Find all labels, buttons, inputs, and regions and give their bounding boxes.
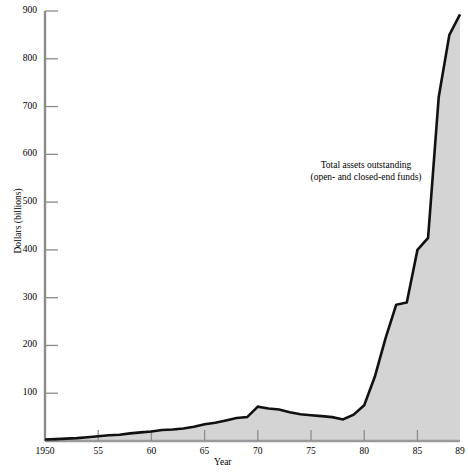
x-axis-tick-label: 75 [291,447,331,457]
x-axis-tick-label: 80 [344,447,384,457]
y-axis-tick-label: 600 [7,149,37,159]
y-axis-ticks [45,11,58,441]
y-axis-tick-label: 100 [7,388,37,398]
series-annotation-line2: (open- and closed-end funds) [300,172,432,184]
y-axis-tick-label: 700 [7,102,37,112]
x-axis-tick-label: 1950 [25,447,65,457]
y-axis-tick-label: 900 [7,6,37,16]
chart-plot-area [0,0,468,474]
series-annotation-line1: Total assets outstanding [300,160,432,172]
x-axis-tick-label: 60 [131,447,171,457]
x-axis-tick-label: 70 [238,447,278,457]
x-axis-tick-label: 55 [78,447,118,457]
series-annotation: Total assets outstanding (open- and clos… [300,160,432,183]
y-axis-tick-label: 800 [7,54,37,64]
x-axis-title: Year [214,457,232,467]
y-axis-title: Dollars (billions) [13,161,23,281]
y-axis-tick-label: 300 [7,293,37,303]
area-fill [45,14,460,441]
x-axis-tick-label: 89 [440,447,468,457]
x-axis-tick-label: 65 [185,447,225,457]
chart-figure: 100200300400500600700800900 195055606570… [0,0,468,474]
y-axis-tick-label: 200 [7,340,37,350]
area-fill-group [45,14,460,441]
x-axis-tick-label: 85 [397,447,437,457]
